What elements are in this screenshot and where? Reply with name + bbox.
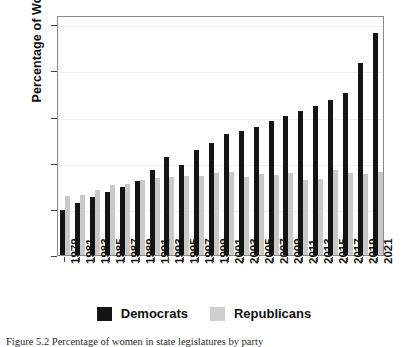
bar-group (311, 106, 326, 255)
x-tick-mark (258, 257, 259, 262)
x-tick-mark (154, 257, 155, 262)
legend-swatch-republicans (210, 307, 225, 321)
bar-group (370, 33, 384, 255)
y-axis-title: Percentage of Women (30, 0, 50, 136)
bar-group (355, 63, 370, 255)
x-tick-mark (109, 257, 110, 262)
bar-group (251, 127, 266, 255)
x-tick-mark (243, 257, 244, 262)
bar-group (222, 134, 237, 255)
x-tick-mark (183, 257, 184, 262)
x-tick-mark (302, 257, 303, 262)
figure-caption: Figure 5.2 Percentage of women in state … (6, 336, 406, 347)
x-tick-mark (198, 257, 199, 262)
gridline (58, 72, 383, 73)
legend-item-democrats: Democrats (97, 306, 188, 321)
x-tick-mark (124, 257, 125, 262)
x-tick-label: 2021 (382, 238, 394, 264)
bar-group (266, 121, 281, 255)
x-tick-mark (273, 257, 274, 262)
x-tick-mark (139, 257, 140, 262)
x-tick-mark (64, 257, 65, 262)
legend-label: Democrats (121, 306, 188, 321)
x-tick-mark (79, 257, 80, 262)
x-tick-mark (228, 257, 229, 262)
bar-group (340, 93, 355, 255)
x-tick-mark (362, 257, 363, 262)
legend-item-republicans: Republicans (210, 306, 311, 321)
chart-legend: DemocratsRepublicans (0, 306, 408, 321)
y-tick-mark (51, 256, 57, 257)
bar-group (296, 111, 311, 255)
x-tick-mark (168, 257, 169, 262)
plot-area (57, 16, 384, 256)
x-tick-mark (287, 257, 288, 262)
x-tick-mark (317, 257, 318, 262)
legend-swatch-democrats (97, 307, 112, 321)
bar-group (326, 100, 341, 255)
x-tick-mark (332, 257, 333, 262)
x-tick-mark (213, 257, 214, 262)
legend-label: Republicans (234, 306, 311, 321)
x-tick-mark (347, 257, 348, 262)
bar-group (281, 116, 296, 255)
bar-group (236, 131, 251, 255)
x-tick-mark (377, 257, 378, 262)
x-tick-mark (94, 257, 95, 262)
gridline (58, 26, 383, 27)
